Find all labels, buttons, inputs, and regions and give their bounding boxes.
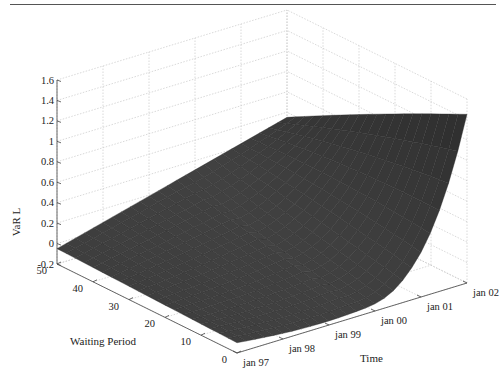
z-tick-label: 0.6 (41, 177, 54, 188)
waiting-period-tick-label: 0 (222, 354, 227, 365)
z-tick-label: 0.4 (41, 197, 55, 208)
time-tick-label: jan 99 (334, 329, 361, 340)
time-tick-label: jan 00 (380, 315, 407, 326)
z-axis-label: VaR L (10, 208, 22, 237)
time-tick-label: jan 98 (288, 343, 315, 354)
waiting-period-tick-label: 30 (109, 301, 120, 312)
z-tick-label: 0 (49, 238, 54, 249)
time-tick-label: jan 97 (242, 357, 269, 368)
z-tick-label: 1.4 (41, 95, 55, 106)
z-tick-label: 1.6 (41, 75, 54, 86)
z-tick-label: 1 (49, 136, 54, 147)
x-axis-label: Time (360, 352, 383, 364)
z-tick-label: 0.2 (41, 218, 54, 229)
surface-plot: -0.200.20.40.60.811.21.41.601020304050ja… (0, 0, 501, 381)
y-axis-label: Waiting Period (70, 335, 137, 347)
time-tick-label: jan 02 (472, 287, 499, 298)
waiting-period-tick-label: 50 (37, 265, 48, 276)
waiting-period-tick-label: 10 (181, 336, 192, 347)
caption-fragment (0, 374, 501, 381)
time-tick-label: jan 01 (426, 301, 453, 312)
waiting-period-tick-label: 20 (145, 318, 156, 329)
waiting-period-tick-label: 40 (73, 283, 84, 294)
z-tick-label: 0.8 (41, 156, 54, 167)
z-tick-label: 1.2 (41, 115, 54, 126)
